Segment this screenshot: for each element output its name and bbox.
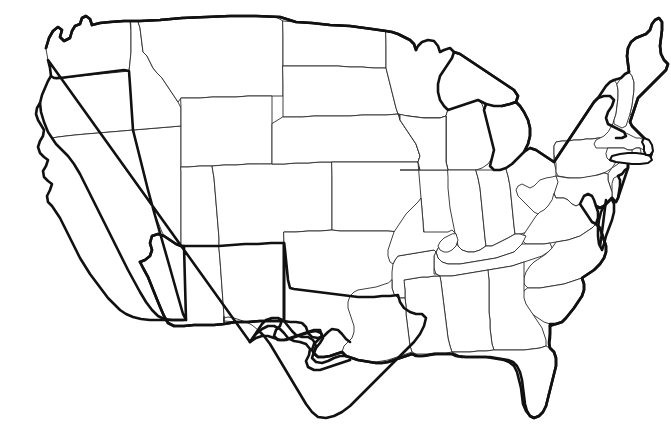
state-utah[interactable] [181,166,219,246]
state-oregon[interactable] [40,71,133,138]
us-map-svg [0,0,671,442]
state-nebraska[interactable] [272,114,420,164]
state-wyoming[interactable] [181,96,272,167]
state-south-dakota[interactable] [283,66,398,117]
us-outline-map [0,0,671,442]
